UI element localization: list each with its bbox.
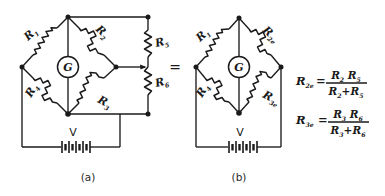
label-a-r6: R6 — [153, 74, 171, 91]
equals-sign: = — [169, 59, 181, 75]
galvanometer-a-label: G — [63, 61, 72, 74]
label-a-r2: R2 — [92, 22, 113, 43]
equation-r3e-equals: = — [318, 113, 328, 127]
svg-text:R2e: R2e — [295, 74, 314, 89]
battery-b-symbol — [229, 141, 257, 153]
svg-text:R1: R1 — [21, 25, 41, 45]
label-b-r1: R1 — [193, 26, 213, 46]
svg-text:R1: R1 — [193, 26, 213, 46]
equation-r3e-numerator: R3 R6 — [332, 108, 363, 122]
svg-text:R5: R5 — [153, 34, 170, 51]
svg-text:R3: R3 — [94, 93, 114, 112]
source-a-label: V — [69, 126, 77, 139]
caption-a: (a) — [81, 171, 96, 183]
label-b-r3e: R3e — [259, 88, 282, 109]
galvanometer-b-label: G — [234, 61, 243, 74]
equation-r2e-equals: = — [316, 74, 326, 88]
equation-r3e-denominator: R3+R6 — [330, 124, 367, 138]
source-b-label: V — [236, 126, 244, 139]
node-b-top — [237, 16, 242, 21]
svg-text:R2: R2 — [92, 22, 113, 43]
node-b-bottom — [236, 110, 242, 116]
wire-a-r2-lower — [104, 55, 116, 67]
svg-text:R4: R4 — [22, 81, 42, 101]
node-a-top — [66, 15, 71, 20]
circuit-a-group: G V — [20, 15, 171, 184]
equation-r2e: R2e = R2 R5 R2+R5 — [295, 69, 367, 99]
resistor-a-r5 — [145, 30, 152, 57]
resistor-a-r6 — [145, 67, 152, 95]
label-a-r3: R3 — [94, 93, 114, 112]
node-a-bottom-right — [146, 112, 151, 117]
svg-text:R3e: R3e — [295, 113, 314, 128]
figure-canvas: G V — [0, 0, 385, 196]
node-b-left — [194, 65, 199, 70]
svg-text:R6: R6 — [153, 74, 171, 91]
battery-a-symbol — [62, 141, 90, 153]
node-b-right — [279, 65, 284, 70]
node-a-top-right — [146, 15, 151, 20]
circuit-b-group: G V R1 R2e R4 — [193, 16, 284, 184]
circuit-figure: G V — [0, 0, 385, 196]
node-a-bottom — [65, 111, 71, 117]
caption-b: (b) — [232, 171, 247, 183]
label-a-r5: R5 — [153, 34, 170, 51]
node-a-left — [20, 65, 25, 70]
label-a-r4: R4 — [22, 81, 42, 101]
equation-r2e-numerator: R2 R5 — [330, 69, 361, 83]
svg-text:R3e: R3e — [259, 88, 282, 109]
equation-r2e-denominator: R2+R5 — [328, 85, 364, 99]
label-a-r1: R1 — [21, 25, 41, 45]
node-a-right — [114, 65, 119, 70]
equation-r3e: R3e = R3 R6 R3+R6 — [295, 108, 369, 138]
